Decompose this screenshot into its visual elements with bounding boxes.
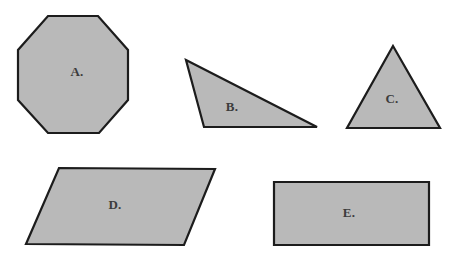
scalene-triangle-label: B. bbox=[226, 99, 238, 114]
shape-rectangle: E. bbox=[274, 182, 429, 245]
shapes-canvas: A.B.C.D.E. bbox=[0, 0, 464, 257]
parallelogram-label: D. bbox=[108, 197, 121, 212]
shape-octagon: A. bbox=[18, 16, 128, 133]
shape-parallelogram: D. bbox=[26, 168, 215, 245]
rectangle-label: E. bbox=[343, 205, 355, 220]
isosceles-triangle-label: C. bbox=[385, 91, 398, 106]
octagon-label: A. bbox=[70, 64, 83, 79]
shapes-figure: A.B.C.D.E. bbox=[0, 0, 464, 257]
